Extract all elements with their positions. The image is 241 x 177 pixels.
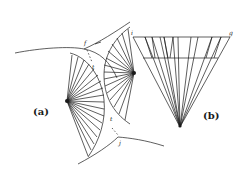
- top-segments: [145, 37, 221, 58]
- label-t-upper: t: [92, 64, 94, 70]
- panel-b-label: (b): [203, 111, 219, 121]
- label-t-lower: t: [110, 116, 112, 122]
- panel-a-drawing: [15, 22, 164, 164]
- panel-a-label: (a): [33, 107, 49, 117]
- label-i: i: [131, 30, 133, 36]
- upper-left-curve: [15, 22, 130, 53]
- left-fan-center: [65, 99, 69, 103]
- label-f: f: [84, 40, 86, 46]
- diagram-figure: (a) f t t j (b) i g: [0, 0, 241, 177]
- left-fan-rays: [67, 55, 104, 156]
- right-fan-center: [132, 71, 136, 75]
- label-j: j: [119, 140, 121, 146]
- lower-curve: [78, 137, 164, 164]
- triangle-apex: [178, 124, 181, 127]
- right-fan-arc: [104, 27, 130, 124]
- diagram-drawing: [0, 0, 241, 177]
- right-fan-rays: [104, 29, 134, 120]
- label-g: g: [229, 30, 233, 36]
